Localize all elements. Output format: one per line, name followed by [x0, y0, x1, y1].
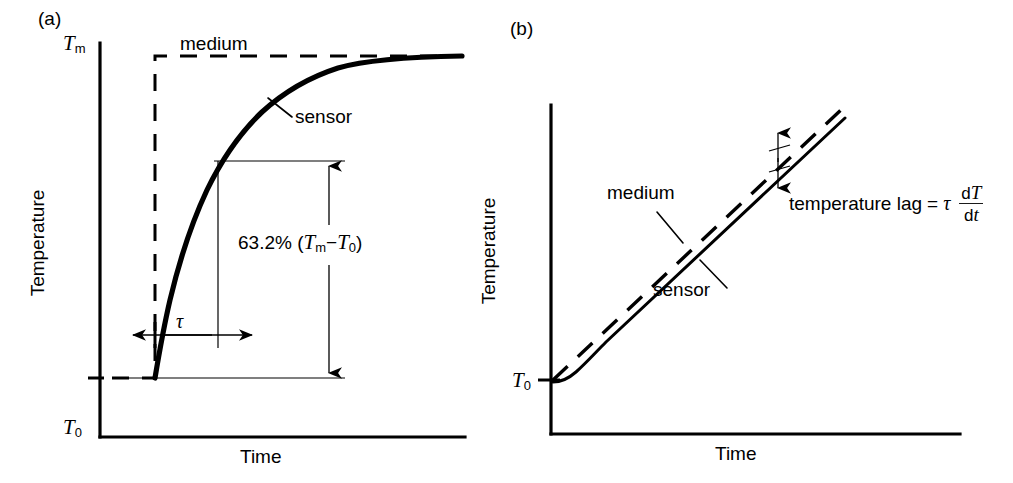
panel-a-x-axis-label: Time	[240, 446, 282, 468]
panel-a-t0-subscript: 0	[75, 425, 82, 440]
panel-a-rise-paren-close: )	[356, 232, 362, 253]
panel-b-t0-symbol: T	[512, 368, 524, 392]
panel-a-sensor-leader	[268, 98, 292, 117]
panel-a-y-tick-t0: T0	[63, 415, 82, 440]
panel-a-rise-percent: 63.2%	[238, 232, 292, 253]
panel-b-lag-tau: τ	[943, 192, 950, 215]
panel-a-rise-tm: T	[303, 230, 315, 254]
panel-a-rise-label: 63.2% (Tm−T0)	[238, 230, 362, 255]
panel-a-y-axis-label: Temperature	[27, 163, 49, 323]
panel-b-x-axis-label: Time	[715, 443, 757, 465]
panel-b-lag-num-T: T	[971, 182, 982, 203]
panel-a-sensor-curve	[155, 56, 462, 378]
panel-a-tau-label: τ	[176, 310, 183, 333]
panel-a-sensor-label: sensor	[295, 106, 352, 128]
panel-b-medium-leader	[657, 212, 683, 243]
panel-b	[538, 105, 960, 434]
panel-b-lag-formula: temperature lag = τ dT dt	[789, 183, 983, 224]
panel-a-y-tick-tm: Tm	[63, 31, 86, 56]
figure-svg	[0, 0, 1013, 483]
panel-a-medium-label: medium	[180, 33, 248, 55]
panel-b-sensor-label: sensor	[653, 279, 710, 301]
panel-b-medium-label: medium	[607, 182, 675, 204]
panel-b-t0-subscript: 0	[524, 378, 531, 393]
panel-b-lag-fraction: dT dt	[959, 183, 983, 224]
panel-b-lag-num-d: d	[961, 184, 970, 203]
panel-a-tm-symbol: T	[63, 31, 75, 55]
panel-b-lag-denominator: dt	[959, 203, 983, 224]
panel-b-sensor-line	[553, 118, 845, 382]
panel-b-label: (b)	[510, 18, 533, 40]
panel-b-y-axis-label: Temperature	[478, 171, 500, 331]
panel-b-lag-numerator: dT	[959, 183, 983, 203]
panel-a-label: (a)	[38, 8, 61, 30]
panel-b-lag-equals: =	[927, 193, 938, 215]
panel-a-rise-t0-sub: 0	[349, 240, 356, 255]
panel-a-tm-subscript: m	[75, 41, 86, 56]
panel-b-y-tick-t0: T0	[512, 368, 531, 393]
panel-b-lag-den-t: t	[973, 204, 978, 225]
panel-b-medium-line	[553, 108, 843, 380]
panel-b-lag-tick-top	[769, 145, 790, 151]
panel-a-rise-tm-sub: m	[315, 240, 326, 255]
figure-container: (a) Tm T0 Temperature Time medium sensor…	[0, 0, 1013, 483]
panel-a-t0-symbol: T	[63, 415, 75, 439]
panel-b-lag-text: temperature lag	[789, 193, 922, 215]
panel-a-rise-minus: −	[326, 232, 337, 253]
panel-a-rise-t0: T	[337, 230, 349, 254]
